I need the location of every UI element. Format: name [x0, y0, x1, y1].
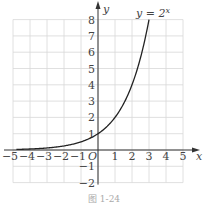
exponential-function-chart: −5−4−3−2−112345−2−112345678 y = 2x y x O… [0, 0, 205, 204]
svg-text:−4: −4 [19, 150, 35, 163]
y-axis-label: y [102, 3, 110, 16]
curve-equation-label: y = 2x [135, 6, 170, 20]
svg-text:−3: −3 [36, 150, 52, 163]
svg-text:3: 3 [88, 95, 95, 108]
tick-labels: −5−4−3−2−112345−2−112345678 [2, 14, 187, 190]
origin-label: O [88, 150, 97, 163]
svg-text:5: 5 [180, 150, 187, 163]
svg-text:−2: −2 [53, 150, 69, 163]
svg-text:5: 5 [88, 63, 95, 76]
svg-text:4: 4 [88, 79, 95, 92]
svg-text:6: 6 [88, 46, 95, 59]
svg-text:−2: −2 [79, 177, 95, 190]
svg-text:1: 1 [112, 150, 119, 163]
figure-caption: 图 1-24 [88, 194, 120, 204]
svg-text:2: 2 [88, 111, 95, 124]
svg-text:8: 8 [88, 14, 95, 27]
svg-text:7: 7 [88, 30, 95, 43]
svg-text:4: 4 [163, 150, 170, 163]
x-axis-label: x [196, 150, 203, 163]
svg-text:3: 3 [146, 150, 153, 163]
svg-text:−5: −5 [2, 150, 18, 163]
svg-text:2: 2 [129, 150, 136, 163]
